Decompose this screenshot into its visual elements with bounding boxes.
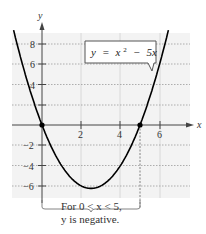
y-tick-label-neg4: −4 [23, 161, 34, 172]
eq-5x: 5x [146, 46, 157, 58]
chart-canvas: 2 4 6 8 6 4 −2 −4 −6 x y y = x 2 − 5x [0, 0, 206, 234]
eq-x: x [115, 46, 121, 58]
caption-line-2: y is negative. [61, 213, 122, 226]
x-tick-label-2: 2 [78, 129, 83, 140]
eq-equals: = [103, 46, 109, 58]
intercept-point-5 [137, 122, 142, 127]
y-tick-label-4: 4 [30, 80, 35, 91]
eq-minus: − [134, 46, 140, 58]
x-tick-label-4: 4 [117, 129, 122, 140]
eq-y: y [90, 46, 96, 58]
y-tick-label-8: 8 [30, 39, 35, 50]
eq-exponent: 2 [123, 46, 127, 54]
y-axis-arrow-icon [40, 22, 45, 30]
y-tick-label-6: 6 [30, 59, 35, 70]
y-tick-label-neg6: −6 [23, 181, 34, 192]
x-axis-label: x [196, 119, 202, 130]
intercept-point-0 [39, 122, 44, 127]
annotation-caption: For 0 < x < 5, y is negative. [61, 200, 122, 226]
x-tick-label-6: 6 [157, 129, 162, 140]
caption-line-1: For 0 < x < 5, [61, 200, 122, 213]
y-tick-label-neg2: −2 [23, 140, 34, 151]
y-axis-label: y [37, 10, 43, 21]
